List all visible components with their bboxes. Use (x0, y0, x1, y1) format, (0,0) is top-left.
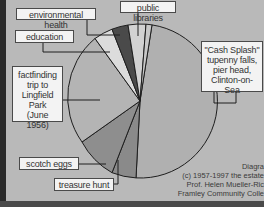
label-education: education (15, 30, 74, 43)
label-factfinding-line2: trip to (15, 80, 60, 90)
label-factfinding: factfinding trip to Lingfield Park (June… (12, 66, 63, 122)
label-factfinding-line5: (June 1956) (15, 110, 60, 130)
label-cash-splash-line1: "Cash Splash" (204, 45, 260, 55)
label-factfinding-line3: Lingfield (15, 90, 60, 100)
label-cash-splash-line2: tupenny falls, (204, 55, 260, 65)
label-cash-splash-line4: Clinton-on-Sea (204, 75, 260, 95)
credit-line-4: Framley Community Colle (178, 189, 264, 198)
credit-line-2: (c) 1957-1997 the estate (182, 171, 264, 180)
label-scotch-eggs: scotch eggs (19, 157, 79, 170)
label-public-libraries: public libraries (120, 1, 176, 13)
label-cash-splash: "Cash Splash" tupenny falls, pier head, … (201, 41, 263, 92)
label-factfinding-line4: Park (15, 100, 60, 110)
photo-frame: environmental health public libraries ed… (0, 0, 264, 207)
label-treasure-hunt: treasure hunt (54, 178, 114, 191)
credit-line-3: Prof. Helen Mueller-Ric (186, 180, 264, 189)
label-factfinding-line1: factfinding (15, 70, 60, 80)
credit-line-1: Diagra (242, 162, 264, 171)
label-cash-splash-line3: pier head, (204, 65, 260, 75)
label-environmental-health: environmental health (16, 8, 96, 20)
